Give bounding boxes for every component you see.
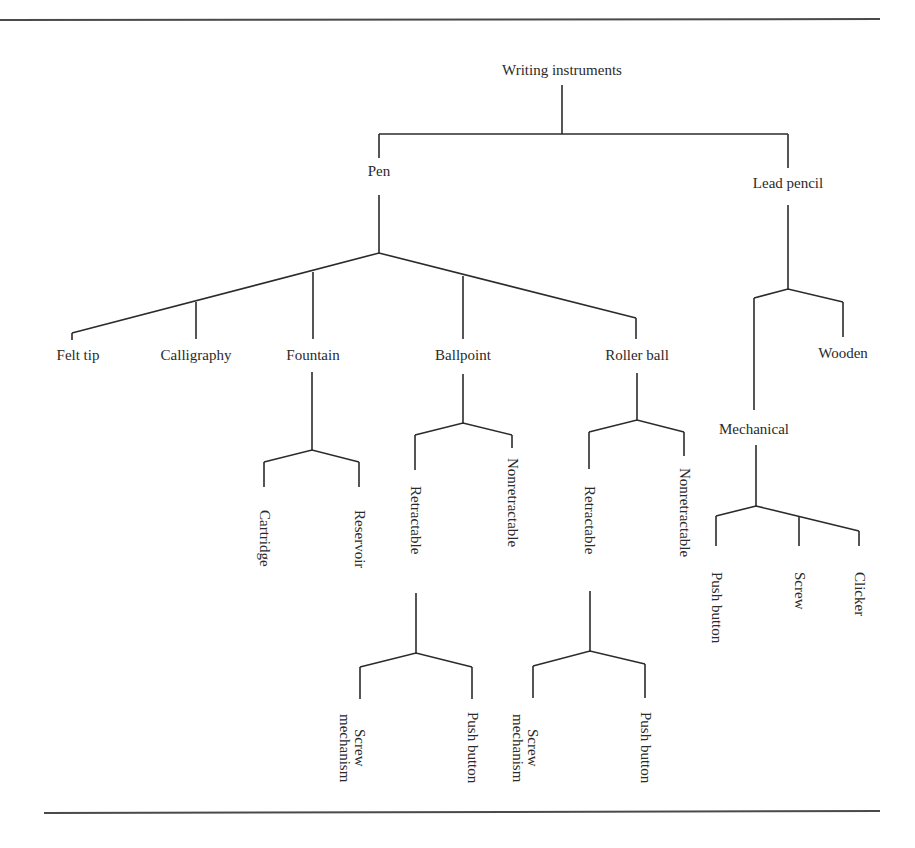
node-rollerball-retractable: Retractable bbox=[582, 486, 597, 554]
node-ballpoint-screw-mechanism: Screw mechanism bbox=[337, 714, 367, 782]
screw-line: Screw bbox=[525, 729, 541, 767]
node-ballpoint-retractable: Retractable bbox=[408, 486, 423, 554]
node-mechanical-screw: Screw bbox=[792, 572, 807, 610]
node-roller-ball: Roller ball bbox=[605, 348, 669, 363]
mechanism-line: mechanism bbox=[337, 714, 353, 782]
node-mechanical-clicker: Clicker bbox=[852, 572, 867, 616]
node-rollerball-screw-mechanism: Screw mechanism bbox=[510, 714, 540, 782]
node-ballpoint: Ballpoint bbox=[435, 348, 491, 363]
node-calligraphy: Calligraphy bbox=[161, 348, 232, 363]
node-writing-instruments: Writing instruments bbox=[502, 63, 622, 78]
node-mechanical: Mechanical bbox=[719, 422, 789, 437]
screw-line: Screw bbox=[352, 729, 368, 767]
node-felt-tip: Felt tip bbox=[57, 348, 100, 363]
mechanism-line: mechanism bbox=[510, 714, 526, 782]
node-mechanical-push-button: Push button bbox=[709, 572, 724, 643]
node-wooden: Wooden bbox=[818, 346, 868, 361]
node-lead-pencil: Lead pencil bbox=[753, 176, 823, 191]
node-ballpoint-nonretractable: Nonretractable bbox=[505, 458, 520, 547]
node-ballpoint-push-button: Push button bbox=[465, 712, 480, 783]
node-reservoir: Reservoir bbox=[352, 510, 367, 568]
writing-instruments-tree-diagram: Writing instruments Pen Lead pencil Felt… bbox=[0, 0, 915, 848]
node-pen: Pen bbox=[368, 164, 391, 179]
node-fountain: Fountain bbox=[286, 348, 339, 363]
node-rollerball-push-button: Push button bbox=[638, 712, 653, 783]
node-rollerball-nonretractable: Nonretractable bbox=[677, 468, 692, 557]
node-cartridge: Cartridge bbox=[257, 510, 272, 567]
